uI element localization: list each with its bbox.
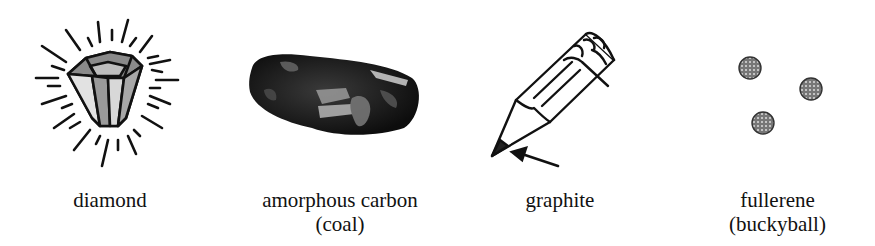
diamond-icon <box>0 0 220 180</box>
figure-item-amorphous-carbon: amorphous carbon (coal) <box>220 0 460 246</box>
figure-item-fullerene: fullerene (buckyball) <box>680 0 875 246</box>
figure-item-diamond: diamond <box>0 0 220 246</box>
figure-item-graphite: graphite <box>460 0 660 246</box>
buckyball-icon <box>680 0 875 180</box>
label-diamond: diamond <box>0 188 220 212</box>
sublabel-coal: (coal) <box>220 212 460 236</box>
label-fullerene: fullerene <box>680 188 875 212</box>
pencil-icon <box>460 0 660 180</box>
coal-icon <box>220 0 460 180</box>
label-amorphous-carbon: amorphous carbon <box>220 188 460 212</box>
label-graphite: graphite <box>460 188 660 212</box>
sublabel-buckyball: (buckyball) <box>680 212 875 236</box>
